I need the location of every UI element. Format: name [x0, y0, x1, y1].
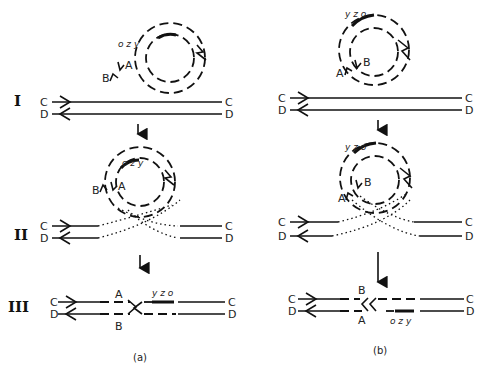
panel-b-stage3: C D C D B A o z y	[288, 284, 474, 327]
gene-label: y z o	[344, 9, 367, 19]
label-b: B	[115, 320, 123, 333]
stage-label-2: II	[14, 226, 28, 244]
label-d: D	[50, 308, 58, 321]
label-d-right: D	[228, 308, 236, 321]
panel-a-stage2: B A o z y C D C D	[40, 147, 233, 245]
gene-label: o z y	[122, 158, 144, 168]
label-a: A	[336, 67, 344, 80]
panel-a-stage3: C D C D A B y z o	[50, 288, 236, 333]
label-a: A	[118, 180, 126, 193]
label-d-right: D	[225, 232, 233, 245]
label-a: A	[338, 192, 346, 205]
label-b: B	[102, 72, 110, 85]
label-d: D	[288, 305, 296, 318]
arrow-a-icon	[118, 62, 124, 70]
panel-a-stage1-circle: B A o z y	[102, 23, 206, 93]
panel-b-stage1-dna: C D C D	[278, 92, 473, 117]
label-d: D	[40, 232, 48, 245]
label-d-right: D	[465, 230, 473, 243]
label-a: A	[115, 288, 123, 301]
label-a: A	[125, 59, 133, 72]
gene-label: y z o	[344, 142, 367, 152]
gene-label: o z y	[390, 316, 412, 326]
label-d-right: D	[466, 305, 474, 318]
label-c-right: C	[465, 216, 473, 229]
gene-label: y z o	[151, 288, 174, 298]
panel-b-stage2: A B y z o C D C D	[278, 142, 473, 243]
label-d: D	[278, 104, 286, 117]
label-d: D	[40, 108, 48, 121]
integration-diagram: I II III B A o z y C D C D	[0, 0, 482, 370]
label-b: B	[92, 184, 100, 197]
label-b: B	[358, 284, 366, 297]
panel-b: A B y z o C D C D A B y z o	[278, 9, 474, 356]
caption-b: (b)	[373, 345, 387, 356]
label-d-right: D	[225, 108, 233, 121]
label-b: B	[363, 56, 371, 69]
label-c: C	[278, 216, 286, 229]
panel-a: B A o z y C D C D B A o z y	[40, 23, 236, 363]
label-a: A	[358, 314, 366, 327]
caption-a: (a)	[133, 352, 147, 363]
label-d-right: D	[465, 104, 473, 117]
stage-label-1: I	[14, 92, 21, 110]
label-b: B	[364, 176, 372, 189]
gene-label: o z y	[118, 39, 140, 49]
panel-a-stage1-dna: C D C D	[40, 96, 233, 121]
label-d: D	[278, 230, 286, 243]
panel-b-stage1-circle: A B y z o	[336, 9, 410, 85]
stage-label-3: III	[8, 298, 29, 316]
arrow-b-icon	[110, 74, 118, 81]
